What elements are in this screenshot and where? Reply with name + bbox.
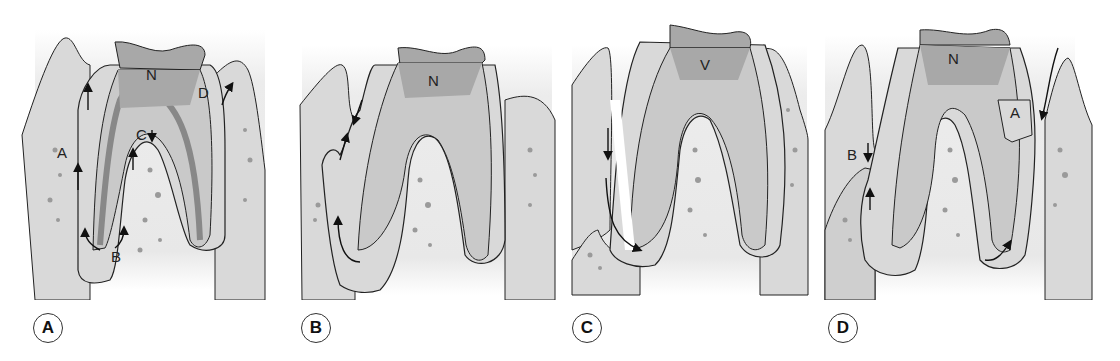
label-a: A [1010, 104, 1020, 121]
label-v: V [700, 56, 710, 73]
tooth-diagram-b: N [280, 0, 560, 300]
panel-badge-c: C [572, 313, 602, 343]
panel-badge-a: A [33, 313, 63, 343]
panel-d: N A B D [820, 0, 1100, 361]
panel-a: N D C A B A [0, 0, 280, 361]
label-b: B [847, 146, 857, 163]
panel-badge-b: B [301, 313, 331, 343]
label-d: D [198, 84, 209, 101]
label-n: N [428, 72, 439, 89]
tooth-diagram-c: V [560, 0, 840, 300]
panel-badge-d: D [828, 313, 858, 343]
label-a: A [57, 144, 67, 161]
tooth-diagram-d: N A B [820, 0, 1120, 300]
tooth-diagram-a: N D C A B [0, 0, 280, 300]
label-c: C [136, 126, 147, 143]
panel-b: N B [280, 0, 560, 361]
label-b: B [111, 248, 121, 265]
label-n: N [146, 66, 157, 83]
label-n: N [948, 50, 959, 67]
panel-c: V C [560, 0, 840, 361]
